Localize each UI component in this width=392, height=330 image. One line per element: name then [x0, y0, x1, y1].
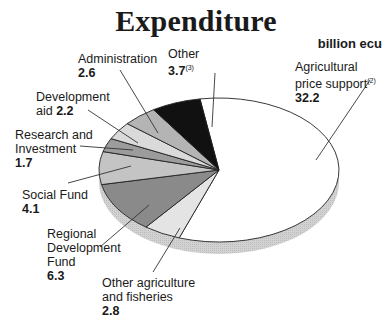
- label-other: Other 3.7(3): [168, 47, 199, 78]
- label-development-aid: Development aid 2.2: [36, 90, 110, 118]
- label-social-fund: Social Fund 4.1: [22, 188, 88, 216]
- label-administration: Administration 2.6: [78, 52, 157, 80]
- pie-slices: [99, 98, 339, 242]
- label-agricultural-price-support: Agricultural price support(2) 32.2: [295, 60, 376, 105]
- label-regional-development-fund: Regional Development Fund 6.3: [47, 227, 121, 283]
- label-other-agriculture-fisheries: Other agriculture and fisheries 2.8: [102, 276, 195, 318]
- label-research-investment: Research and Investment 1.7: [15, 128, 93, 170]
